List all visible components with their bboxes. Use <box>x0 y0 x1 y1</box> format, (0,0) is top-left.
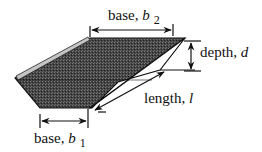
label-length: length, l <box>144 90 193 106</box>
label-base-b1: base, b1 <box>34 130 86 150</box>
dimension-depth-d: depth, d <box>184 41 249 71</box>
dimension-base-b1: base, b1 <box>34 109 88 150</box>
label-depth: depth, d <box>200 44 249 60</box>
trapezoid-channel-diagram: base, b2 depth, d length, l base, b1 <box>0 0 262 152</box>
dimension-base-b2: base, b2 <box>90 7 173 37</box>
label-base-b2: base, b2 <box>108 7 160 27</box>
